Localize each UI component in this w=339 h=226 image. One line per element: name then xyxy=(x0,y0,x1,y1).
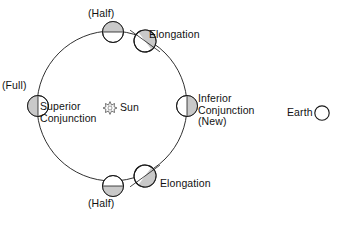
label-full-phase: (Full) xyxy=(2,80,27,92)
sun-burst-icon xyxy=(103,102,117,115)
orbit-phase-diagram: (Half) Elongation (Full) SuperiorConjunc… xyxy=(0,0,339,226)
label-elongation-top: Elongation xyxy=(149,29,200,41)
label-half-top: (Half) xyxy=(88,8,114,20)
label-inferior-conjunction-line3: (New) xyxy=(198,115,227,127)
label-half-bottom: (Half) xyxy=(88,198,114,210)
label-inferior-conjunction-line2: Conjunction xyxy=(198,104,255,116)
label-superior-conjunction-line2: Conjunction xyxy=(40,112,97,124)
label-earth: Earth xyxy=(287,107,313,119)
planet-half-bottom xyxy=(103,176,124,197)
label-superior-conjunction-line1: Superior xyxy=(40,100,81,112)
label-elongation-bottom: Elongation xyxy=(160,178,211,190)
planet-inferior-conjunction xyxy=(177,96,198,117)
label-inferior-conjunction-line1: Inferior xyxy=(198,92,231,104)
label-sun: Sun xyxy=(120,102,139,114)
label-inferior-conjunction: InferiorConjunction(New) xyxy=(198,93,255,128)
earth-circle-icon xyxy=(315,106,329,120)
planet-half-top xyxy=(103,22,124,43)
label-superior-conjunction: SuperiorConjunction xyxy=(40,101,97,124)
